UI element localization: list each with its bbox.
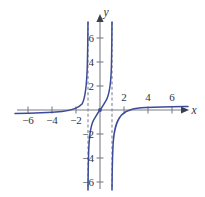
x-tick-label-6: 6: [169, 91, 175, 103]
x-tick-label--4: −4: [46, 114, 58, 126]
y-tick-label--4: −4: [82, 152, 94, 164]
x-axis-arrow-icon: [181, 106, 189, 113]
origin-point: [98, 108, 102, 112]
x-tick-label--6: −6: [22, 114, 34, 126]
graph-figure: −6 −4 −2 2 4 6 6 4 2 −2 −4 −6 x y: [0, 0, 205, 197]
curve-branch-left: [15, 22, 88, 114]
x-tick-label--2: −2: [70, 114, 82, 126]
y-tick-label--6: −6: [82, 176, 94, 188]
y-tick-label-4: 4: [89, 56, 95, 68]
y-tick-label-2: 2: [89, 80, 95, 92]
y-tick-label--2: −2: [82, 128, 94, 140]
coordinate-plane: −6 −4 −2 2 4 6 6 4 2 −2 −4 −6 x y: [0, 0, 205, 197]
x-axis-label: x: [190, 104, 197, 116]
x-tick-label-4: 4: [145, 91, 151, 103]
y-axis-label: y: [102, 6, 109, 19]
x-tick-label-2: 2: [121, 91, 127, 103]
y-tick-label-6: 6: [89, 32, 95, 44]
curve-branch-right: [112, 106, 188, 190]
